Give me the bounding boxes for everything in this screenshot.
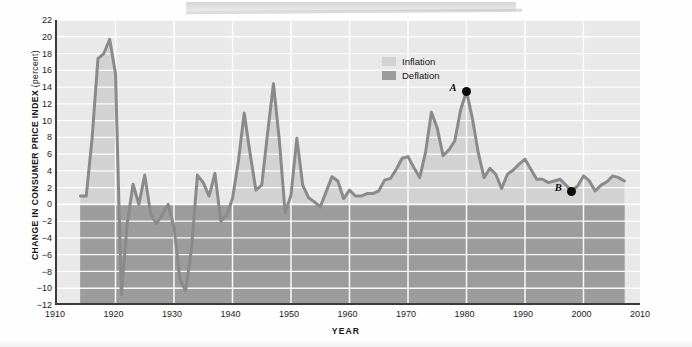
x-tick-label: 2000: [571, 309, 591, 319]
x-tick-label: 1960: [337, 309, 357, 319]
x-tick-label: 1930: [162, 309, 182, 319]
y-tick-label: −10: [22, 283, 52, 293]
y-tick-label: 18: [22, 49, 52, 59]
legend-label-deflation: Deflation: [402, 70, 440, 81]
x-tick-label: 1910: [45, 309, 65, 319]
x-axis-title: YEAR: [0, 326, 692, 336]
annotation-label-a: A: [450, 82, 457, 93]
y-tick-label: −8: [22, 267, 52, 277]
x-tick-label: 1920: [103, 309, 123, 319]
x-tick-label: 1950: [279, 309, 299, 319]
y-tick-label: 2: [22, 183, 52, 193]
chart-canvas: [57, 20, 640, 305]
plot-area: Inflation Deflation AB: [55, 20, 640, 305]
y-tick-label: 6: [22, 149, 52, 159]
y-tick-label: 22: [22, 15, 52, 25]
y-tick-label: −6: [22, 250, 52, 260]
page-bottom-shadow: [0, 339, 692, 347]
y-tick-label: 12: [22, 99, 52, 109]
legend-item-inflation: Inflation: [382, 56, 440, 67]
annotation-point-a: [462, 87, 471, 96]
y-tick-label: 8: [22, 132, 52, 142]
annotation-label-b: B: [555, 182, 562, 193]
y-tick-label: 16: [22, 65, 52, 75]
y-tick-label: 0: [22, 199, 52, 209]
deflation-swatch-icon: [382, 71, 396, 80]
y-tick-label: 20: [22, 32, 52, 42]
annotation-point-b: [567, 187, 576, 196]
x-tick-label: 1980: [454, 309, 474, 319]
y-tick-label: −4: [22, 233, 52, 243]
y-tick-label: 14: [22, 82, 52, 92]
chart-figure: CHANGE IN CONSUMER PRICE INDEX (percent)…: [0, 0, 692, 347]
legend-label-inflation: Inflation: [402, 56, 435, 67]
inflation-swatch-icon: [382, 57, 396, 66]
legend-item-deflation: Deflation: [382, 70, 440, 81]
y-axis-tick-labels: 2220181614121086420−2−4−6−8−10−12: [16, 20, 52, 305]
y-tick-label: −2: [22, 216, 52, 226]
x-tick-label: 1940: [220, 309, 240, 319]
y-tick-label: 4: [22, 166, 52, 176]
x-tick-label: 2010: [630, 309, 650, 319]
legend: Inflation Deflation: [382, 56, 440, 84]
x-tick-label: 1990: [513, 309, 533, 319]
x-tick-label: 1970: [396, 309, 416, 319]
y-tick-label: 10: [22, 116, 52, 126]
